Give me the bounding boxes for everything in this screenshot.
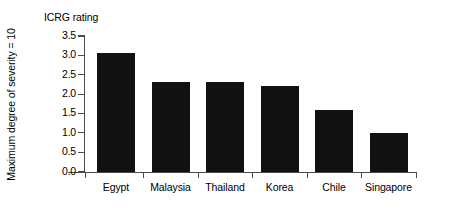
bar xyxy=(261,86,299,171)
y-axis-tick-label: 2.5 xyxy=(62,68,76,80)
y-axis-tick xyxy=(78,94,85,95)
x-axis-tick xyxy=(143,172,144,178)
y-axis-tick-label: 1.0 xyxy=(62,126,76,138)
y-axis-tick xyxy=(78,35,85,36)
bar xyxy=(152,82,190,171)
bar xyxy=(370,133,408,172)
y-axis-tick xyxy=(78,152,85,153)
x-axis-tick xyxy=(361,172,362,178)
x-axis-tick xyxy=(198,172,199,178)
y-axis-tick-label: 3.0 xyxy=(62,48,76,60)
x-axis-tick xyxy=(416,172,417,178)
y-axis-tick-label: 3.5 xyxy=(62,29,76,41)
y-axis-tick-label: 1.5 xyxy=(62,106,76,118)
y-axis-tick xyxy=(78,132,85,133)
bar-chart-figure: Maximum degree of severity = 10 ICRG rat… xyxy=(0,0,452,209)
x-axis-tick xyxy=(252,172,253,178)
y-axis-title: Maximum degree of severity = 10 xyxy=(0,0,22,209)
bar xyxy=(206,82,244,171)
bar xyxy=(97,53,135,171)
y-axis-tick-labels: 0.00.51.01.52.02.53.03.5 xyxy=(46,0,76,209)
x-axis-category-label: Singapore xyxy=(349,181,429,193)
y-axis-tick xyxy=(78,55,85,56)
y-axis-tick-label: 2.0 xyxy=(62,87,76,99)
bar xyxy=(315,110,353,172)
x-axis-tick xyxy=(85,172,86,178)
y-axis-tick xyxy=(78,74,85,75)
y-axis-tick-label: 0.5 xyxy=(62,145,76,157)
x-axis-tick xyxy=(307,172,308,178)
y-axis-tick-label: 0.0 xyxy=(62,165,76,177)
y-axis-tick xyxy=(78,113,85,114)
x-axis-line xyxy=(68,172,416,173)
